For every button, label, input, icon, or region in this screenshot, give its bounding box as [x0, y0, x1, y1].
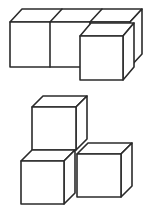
l-arrangement-cubes-figure — [21, 96, 132, 204]
left-cube-front-face — [21, 161, 64, 204]
cube-figures-canvas — [0, 0, 150, 212]
cube-drawing-page — [0, 0, 150, 212]
stacked-cube-front-face — [32, 107, 76, 150]
front-cube-front-face — [80, 36, 123, 80]
row-of-cubes-figure — [10, 9, 142, 80]
right-cube-front-face — [77, 154, 121, 197]
row-top-face — [10, 9, 142, 22]
